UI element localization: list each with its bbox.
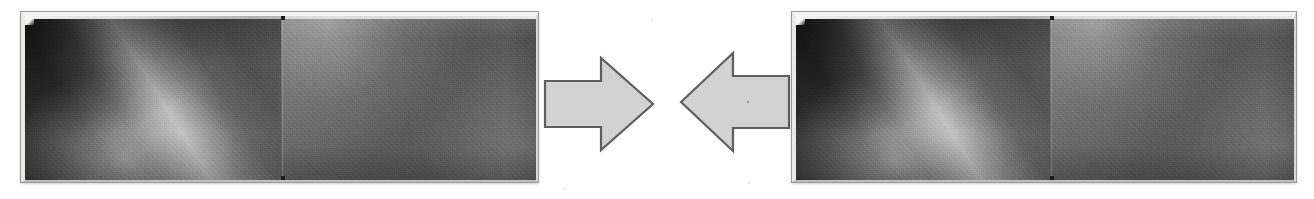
arrow-right-shape xyxy=(545,58,653,150)
left-panel-right-half xyxy=(281,16,537,180)
left-panel-frame xyxy=(21,12,538,182)
arrow-left-shape xyxy=(681,53,789,151)
seam-tick-top xyxy=(281,16,285,20)
figure-root xyxy=(0,0,1314,199)
arrow-right-icon[interactable] xyxy=(543,55,655,153)
flat-midgray-field xyxy=(1050,16,1294,180)
dark-gradient-field xyxy=(796,16,1050,180)
right-panel-inner xyxy=(796,16,1294,180)
arrow-speck xyxy=(747,101,749,103)
left-panel-inner xyxy=(25,16,536,180)
seam-tick-top xyxy=(1050,16,1054,20)
corner-highlight-nub xyxy=(796,16,805,25)
corner-highlight-nub xyxy=(25,16,34,25)
seam-tick-bottom xyxy=(1050,176,1054,180)
seam-tick-bottom xyxy=(281,176,285,180)
flat-midgray-field xyxy=(281,16,537,180)
right-panel-frame xyxy=(792,12,1296,182)
panel-split-seam xyxy=(281,16,283,180)
left-image-panel[interactable] xyxy=(21,12,538,182)
right-image-panel[interactable] xyxy=(792,12,1296,182)
panel-split-seam xyxy=(1050,16,1052,180)
arrow-left-icon[interactable] xyxy=(679,50,791,154)
right-panel-right-half xyxy=(1050,16,1294,180)
top-edge-highlight xyxy=(796,16,1294,19)
dark-gradient-field xyxy=(25,16,281,180)
right-panel-left-half xyxy=(796,16,1050,180)
left-panel-left-half xyxy=(25,16,281,180)
